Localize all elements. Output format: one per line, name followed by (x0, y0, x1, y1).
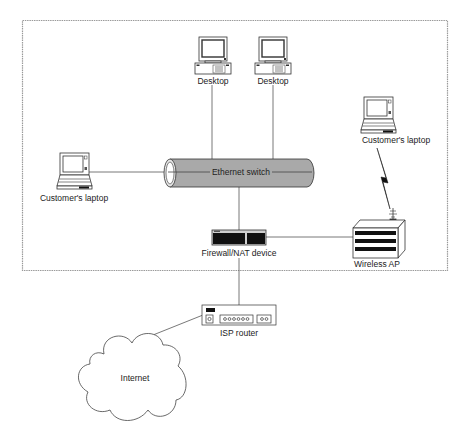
network-diagram: Desktop Desktop Customer's laptop Custom… (0, 0, 472, 446)
desktop-icon[interactable] (255, 37, 291, 74)
connection-lines (89, 85, 354, 337)
laptop-icon[interactable] (361, 97, 396, 133)
ethernet-switch-label: Ethernet switch (212, 168, 270, 177)
wireless-ap-label: Wireless AP (354, 260, 400, 269)
diagram-canvas (0, 0, 472, 446)
isp-router-icon[interactable] (202, 305, 276, 325)
isp-router-label: ISP router (220, 329, 258, 338)
firewall-label: Firewall/NAT device (202, 249, 277, 258)
desktop-icon[interactable] (195, 37, 231, 74)
edge-router-internet (148, 315, 203, 337)
desktop-label: Desktop (197, 77, 228, 86)
laptop-icon[interactable] (57, 153, 92, 189)
firewall-icon[interactable] (212, 230, 266, 245)
desktop-label: Desktop (257, 77, 288, 86)
wireless-link-lightning-icon (377, 148, 390, 209)
wireless-ap-icon[interactable] (353, 208, 405, 258)
internet-label: Internet (121, 374, 150, 383)
laptop-label: Customer's laptop (362, 136, 430, 145)
laptop-label: Customer's laptop (40, 194, 108, 203)
